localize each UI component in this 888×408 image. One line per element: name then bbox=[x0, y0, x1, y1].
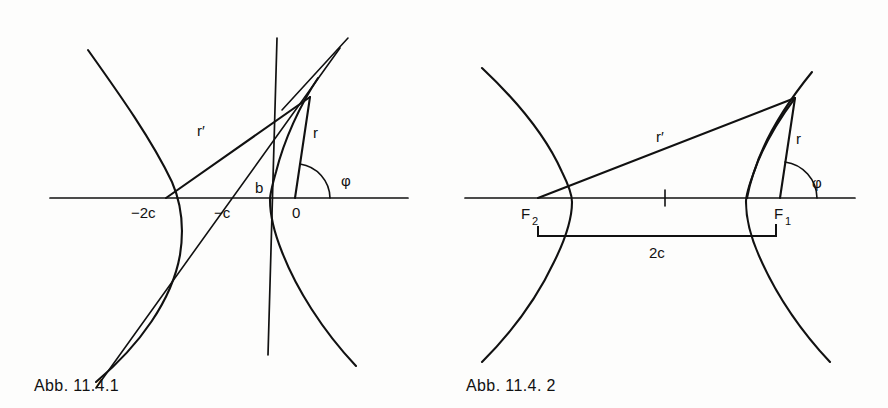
figure-abb-11-4-2: F 2 F 1 r r′ φ 2c Abb. 11.4. 2 bbox=[444, 0, 888, 408]
segment-r-prime bbox=[538, 98, 795, 198]
label-origin: 0 bbox=[292, 204, 300, 221]
figure-1-canvas: −2c −c b 0 r r′ φ Abb. 11.4.1 bbox=[0, 0, 444, 408]
segment-r-prime bbox=[166, 97, 310, 198]
angle-arc-phi bbox=[300, 164, 330, 198]
label-F2: F bbox=[521, 205, 530, 222]
label-r: r bbox=[313, 124, 318, 141]
label-F1-group: F 1 bbox=[774, 205, 791, 227]
figure-2-canvas: F 2 F 1 r r′ φ 2c Abb. 11.4. 2 bbox=[444, 0, 888, 408]
label-r-prime: r′ bbox=[197, 122, 205, 139]
label-F1: F bbox=[774, 205, 783, 222]
label-b: b bbox=[255, 179, 263, 196]
hyperbola-right-branch bbox=[270, 78, 356, 366]
label-phi: φ bbox=[341, 172, 351, 189]
label-F2-subscript: 2 bbox=[532, 215, 538, 227]
label-r-prime: r′ bbox=[656, 128, 664, 145]
label-r: r bbox=[796, 130, 801, 147]
label-minus-c: −c bbox=[214, 204, 231, 221]
figure-abb-11-4-1: −2c −c b 0 r r′ φ Abb. 11.4.1 bbox=[0, 0, 444, 408]
label-F1-subscript: 1 bbox=[785, 215, 791, 227]
bracket-2c bbox=[538, 224, 776, 236]
label-minus-2c: −2c bbox=[131, 204, 156, 221]
figure-page: −2c −c b 0 r r′ φ Abb. 11.4.1 bbox=[0, 0, 888, 408]
label-phi: φ bbox=[812, 174, 822, 191]
figure-2-caption: Abb. 11.4. 2 bbox=[466, 377, 556, 394]
asymptote-upper-right bbox=[282, 38, 348, 110]
label-2c: 2c bbox=[649, 244, 665, 261]
figure-1-caption: Abb. 11.4.1 bbox=[34, 377, 119, 394]
label-F2-group: F 2 bbox=[521, 205, 538, 227]
